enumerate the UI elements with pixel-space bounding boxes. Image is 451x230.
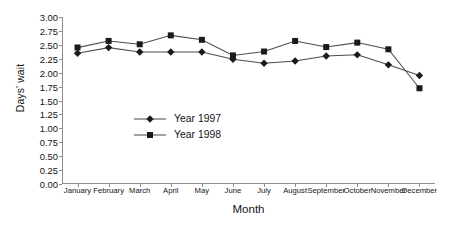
y-tick-label: 2.50 — [28, 41, 58, 50]
data-point-marker — [385, 61, 392, 68]
series-line — [78, 35, 420, 88]
data-point-marker — [292, 38, 298, 44]
chart-legend: Year 1997Year 1998 — [133, 111, 253, 143]
data-point-marker — [167, 48, 174, 55]
data-point-marker — [198, 48, 205, 55]
y-tick-label: 2.00 — [28, 69, 58, 78]
x-tick-label: March — [129, 186, 150, 196]
data-point-marker — [230, 52, 236, 58]
data-point-marker — [354, 51, 361, 58]
line-chart: Days' wait 3.002.752.502.252.001.751.501… — [0, 0, 451, 230]
data-point-marker — [137, 41, 143, 47]
y-axis-title: Days' wait — [14, 42, 26, 134]
y-axis-tick-labels: 3.002.752.502.252.001.751.501.251.000.75… — [28, 12, 58, 184]
y-tick-label: 0.50 — [28, 152, 58, 161]
legend-item: Year 1997 — [133, 111, 253, 127]
series-layer — [62, 17, 435, 184]
y-tick-mark — [59, 184, 62, 185]
x-tick-label: April — [163, 186, 178, 196]
x-tick-label: June — [225, 186, 242, 196]
series-1 — [74, 44, 423, 79]
data-point-marker — [136, 48, 143, 55]
y-tick-mark — [59, 142, 62, 143]
data-point-marker — [323, 52, 330, 59]
data-point-marker — [75, 45, 81, 51]
y-tick-mark — [59, 101, 62, 102]
y-tick-label: 1.00 — [28, 124, 58, 133]
legend-label: Year 1997 — [174, 112, 221, 126]
y-tick-mark — [59, 170, 62, 171]
data-point-marker — [354, 40, 360, 46]
x-tick-label: December — [402, 186, 437, 196]
series-line — [78, 48, 420, 76]
legend-item: Year 1998 — [133, 127, 253, 143]
y-tick-label: 0.00 — [28, 180, 58, 189]
x-tick-label: July — [257, 186, 271, 196]
data-point-marker — [105, 44, 112, 51]
x-tick-label: October — [344, 186, 371, 196]
x-axis-tick-labels: JanuaryFebruaryMarchAprilMayJuneJulyAugu… — [62, 186, 435, 200]
x-tick-label: January — [64, 186, 91, 196]
x-tick-label: September — [307, 186, 345, 196]
y-tick-label: 3.00 — [28, 13, 58, 22]
data-point-marker — [261, 49, 267, 55]
legend-label: Year 1998 — [174, 128, 221, 142]
data-point-marker — [260, 60, 267, 67]
y-tick-mark — [59, 59, 62, 60]
y-tick-label: 1.50 — [28, 97, 58, 106]
y-tick-label: 2.75 — [28, 27, 58, 36]
data-point-marker — [385, 46, 391, 52]
x-axis-title: Month — [62, 203, 435, 215]
y-tick-mark — [59, 31, 62, 32]
y-tick-label: 0.25 — [28, 166, 58, 175]
legend-square-marker-icon — [133, 127, 167, 143]
y-tick-mark — [59, 114, 62, 115]
y-tick-mark — [59, 73, 62, 74]
y-tick-mark — [59, 45, 62, 46]
data-point-marker — [323, 44, 329, 50]
x-tick-label: February — [93, 186, 124, 196]
y-tick-mark — [59, 17, 62, 18]
data-point-marker — [106, 38, 112, 44]
x-tick-label: August — [283, 186, 307, 196]
y-tick-label: 0.75 — [28, 138, 58, 147]
series-2 — [75, 32, 423, 91]
plot-area — [62, 17, 435, 184]
legend-diamond-marker-icon — [133, 111, 167, 127]
y-tick-label: 1.75 — [28, 83, 58, 92]
y-tick-mark — [59, 128, 62, 129]
data-point-marker — [416, 85, 422, 91]
y-tick-label: 2.25 — [28, 55, 58, 64]
y-tick-mark — [59, 156, 62, 157]
data-point-marker — [416, 72, 423, 79]
data-point-marker — [291, 57, 298, 64]
y-tick-mark — [59, 87, 62, 88]
data-point-marker — [199, 37, 205, 43]
x-tick-label: May — [195, 186, 210, 196]
y-tick-label: 1.25 — [28, 110, 58, 119]
data-point-marker — [168, 32, 174, 38]
